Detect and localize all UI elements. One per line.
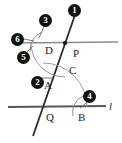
step-badge-4: 4 [83,90,96,103]
point-label-Q: Q [46,112,54,123]
point-label-D: D [45,45,53,56]
point-label-A: A [44,80,52,91]
step-badge-1: 1 [68,4,81,17]
line-label-l: l [109,101,112,112]
step-badge-3: 3 [39,14,52,27]
point-label-P: P [73,48,79,59]
point-label-C: C [69,65,76,76]
step-badge-5: 5 [17,51,30,64]
geometry-figure: D P C A Q B l 1 3 6 5 2 4 [0,0,122,143]
figure-canvas [0,0,122,143]
point-label-B: B [78,112,85,123]
lower-parallel-line-l [8,106,106,107]
step-badge-6: 6 [11,33,24,46]
step-badge-2: 2 [31,76,44,89]
point-dot-P [63,41,67,45]
